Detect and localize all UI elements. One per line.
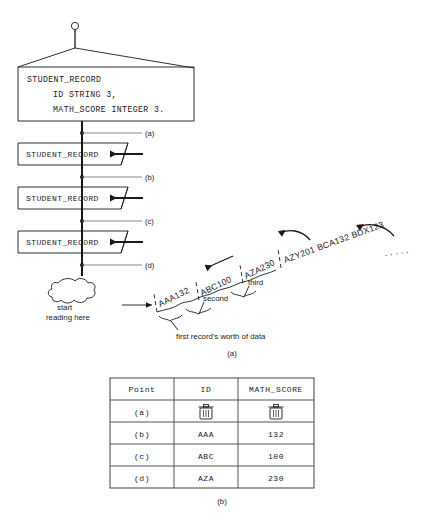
- read-direction-arrow-2: [280, 231, 310, 240]
- point-label-c: (c): [145, 217, 154, 226]
- table-cell-point-a: (a): [134, 408, 150, 417]
- table-cell-point-c: (c): [134, 452, 150, 461]
- table-cell-math-score-b: 132: [268, 430, 284, 439]
- caption-a: (a): [227, 349, 237, 358]
- brace-label-first: first record's worth of data: [176, 332, 266, 341]
- cloud-note-line-2: reading here: [46, 313, 90, 322]
- table-cell-point-d: (d): [134, 474, 150, 483]
- stream-ellipsis: . . . . .: [384, 245, 409, 258]
- table-header-point: Point: [128, 385, 155, 394]
- point-label-a: (a): [145, 129, 155, 138]
- record-box-label-2: STUDENT_RECORD: [26, 194, 99, 203]
- table-cell-math-score-d: 230: [268, 474, 284, 483]
- brace-label-second: second: [203, 294, 228, 303]
- table-header-math-score: MATH_SCORE: [249, 385, 303, 394]
- point-label-d: (d): [145, 261, 155, 270]
- table-header-id: ID: [201, 385, 212, 394]
- declaration-line-3: MATH_SCORE INTEGER 3.: [53, 105, 165, 114]
- balloon-pointer: [18, 22, 194, 68]
- record-box-label-3: STUDENT_RECORD: [26, 238, 99, 247]
- table-cell-id-c: ABC: [198, 452, 214, 461]
- declaration-line-1: STUDENT_RECORD: [27, 75, 101, 84]
- stream-chunk-tail: AZY201 BCA132 BDX123: [282, 219, 385, 265]
- cloud-shape: [48, 279, 95, 303]
- table-cell-id-d: AZA: [198, 474, 214, 483]
- figure-canvas: STUDENT_RECORD ID STRING 3, MATH_SCORE I…: [0, 0, 423, 521]
- cloud-note-line-1: start: [57, 303, 73, 312]
- table-cell-math-score-c: 100: [268, 452, 284, 461]
- figure-root: STUDENT_RECORD ID STRING 3, MATH_SCORE I…: [0, 0, 423, 521]
- point-label-b: (b): [145, 173, 155, 182]
- record-box-label-1: STUDENT_RECORD: [26, 150, 99, 159]
- table-cell-point-b: (b): [134, 430, 150, 439]
- table-cell-id-b: AAA: [198, 430, 214, 439]
- stream-chunk-1: AAA132: [156, 285, 190, 309]
- caption-b: (b): [217, 497, 227, 506]
- declaration-line-2: ID STRING 3,: [53, 90, 117, 99]
- read-direction-arrow-1: [206, 256, 233, 268]
- brace-label-third: third: [248, 278, 263, 287]
